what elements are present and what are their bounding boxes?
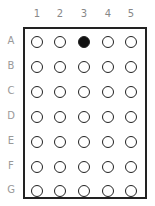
well-empty[interactable]: [102, 111, 114, 123]
well-empty[interactable]: [78, 161, 90, 173]
column-label: 3: [76, 8, 92, 19]
column-label: 2: [52, 8, 68, 19]
column-label: 1: [29, 8, 45, 19]
row-label: A: [6, 35, 16, 46]
well-filled[interactable]: [78, 36, 90, 48]
row-label: E: [6, 135, 16, 146]
well-empty[interactable]: [102, 86, 114, 98]
column-label: 5: [123, 8, 139, 19]
well-empty[interactable]: [78, 86, 90, 98]
well-empty[interactable]: [125, 111, 137, 123]
well-empty[interactable]: [78, 185, 90, 197]
well-empty[interactable]: [31, 161, 43, 173]
well-empty[interactable]: [125, 86, 137, 98]
well-empty[interactable]: [125, 136, 137, 148]
well-empty[interactable]: [54, 61, 66, 73]
well-empty[interactable]: [54, 136, 66, 148]
well-empty[interactable]: [31, 136, 43, 148]
well-empty[interactable]: [78, 136, 90, 148]
well-empty[interactable]: [102, 185, 114, 197]
row-label: B: [6, 60, 16, 71]
well-empty[interactable]: [54, 111, 66, 123]
well-empty[interactable]: [54, 86, 66, 98]
well-empty[interactable]: [31, 185, 43, 197]
well-empty[interactable]: [78, 111, 90, 123]
row-label: G: [6, 184, 16, 195]
well-empty[interactable]: [102, 161, 114, 173]
well-empty[interactable]: [125, 36, 137, 48]
well-empty[interactable]: [125, 161, 137, 173]
well-empty[interactable]: [78, 61, 90, 73]
well-empty[interactable]: [102, 36, 114, 48]
well-empty[interactable]: [54, 185, 66, 197]
well-empty[interactable]: [54, 161, 66, 173]
well-empty[interactable]: [125, 185, 137, 197]
well-empty[interactable]: [31, 111, 43, 123]
column-label: 4: [100, 8, 116, 19]
well-empty[interactable]: [102, 61, 114, 73]
well-empty[interactable]: [31, 86, 43, 98]
row-label: C: [6, 85, 16, 96]
well-empty[interactable]: [102, 136, 114, 148]
well-empty[interactable]: [31, 36, 43, 48]
row-label: F: [6, 160, 16, 171]
well-empty[interactable]: [31, 61, 43, 73]
well-empty[interactable]: [125, 61, 137, 73]
row-label: D: [6, 110, 16, 121]
well-empty[interactable]: [54, 36, 66, 48]
